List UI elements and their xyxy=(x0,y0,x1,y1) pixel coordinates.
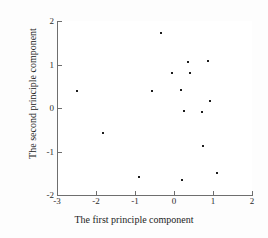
data-point xyxy=(201,111,203,113)
data-point xyxy=(171,72,173,74)
scatter-plot-figure: -3-2-1012 210-1-2 The first principle co… xyxy=(0,0,268,238)
y-tick-label: -2 xyxy=(36,190,54,200)
y-axis-label: The second principle component xyxy=(27,0,38,194)
data-point xyxy=(160,32,162,34)
x-tick-label: 1 xyxy=(202,196,224,207)
y-tick-label: -1 xyxy=(36,147,54,157)
x-tick xyxy=(135,191,136,195)
data-point xyxy=(180,89,182,91)
x-tick-label: -1 xyxy=(124,196,146,207)
data-point xyxy=(138,176,140,178)
y-tick xyxy=(58,21,62,22)
x-tick xyxy=(213,191,214,195)
x-tick xyxy=(252,191,253,195)
y-tick xyxy=(58,108,62,109)
data-point xyxy=(181,179,183,181)
x-tick-label: -2 xyxy=(85,196,107,207)
data-point xyxy=(207,60,209,62)
y-tick xyxy=(58,195,62,196)
data-point xyxy=(187,61,189,63)
x-axis-label: The first principle component xyxy=(0,214,268,225)
x-tick-label: 2 xyxy=(241,196,263,207)
y-tick xyxy=(58,152,62,153)
y-tick-label: 2 xyxy=(36,16,54,26)
data-point xyxy=(216,172,218,174)
y-tick xyxy=(58,65,62,66)
x-tick-label: 0 xyxy=(163,196,185,207)
y-tick-label: 1 xyxy=(36,60,54,70)
data-point xyxy=(202,145,204,147)
data-point xyxy=(76,90,78,92)
data-point xyxy=(102,132,104,134)
data-point xyxy=(189,72,191,74)
data-point xyxy=(183,110,185,112)
y-tick-label: 0 xyxy=(36,103,54,113)
data-point xyxy=(151,90,153,92)
x-tick xyxy=(174,191,175,195)
x-tick xyxy=(96,191,97,195)
plot-area xyxy=(57,21,252,195)
data-point xyxy=(209,100,211,102)
